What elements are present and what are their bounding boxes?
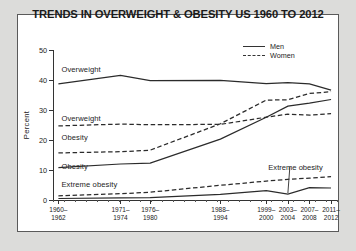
x-axis-label: 1988–1994 [211, 206, 229, 223]
x-axis-label-line: 1980 [143, 214, 157, 221]
y-axis-tick-label: 10 [39, 166, 47, 175]
x-axis-label-line: 2004 [281, 214, 295, 221]
x-axis-label-line: 2003– [279, 206, 297, 213]
x-axis-label-line: 2007– [300, 206, 318, 213]
y-axis-tick-label: 40 [39, 76, 47, 85]
x-axis-minor-tick [250, 200, 251, 202]
x-axis-label: 1971–1974 [111, 206, 129, 223]
x-axis-label-line: 1994 [213, 214, 227, 221]
x-axis-tick [120, 200, 121, 204]
x-axis-minor-tick [119, 200, 120, 202]
legend-swatch-solid-icon [243, 46, 265, 47]
x-axis-label-line: 2008 [302, 214, 316, 221]
x-axis-tick [331, 200, 332, 204]
x-axis-minor-tick [53, 200, 54, 202]
y-axis-tick-label: 30 [39, 106, 47, 115]
x-axis-minor-tick [64, 200, 65, 202]
x-axis-label: 2007–2008 [300, 206, 318, 223]
x-axis-minor-tick [97, 200, 98, 202]
x-axis-minor-tick [282, 200, 283, 202]
x-axis-minor-tick [195, 200, 196, 202]
x-axis-label-line: 1999– [257, 206, 275, 213]
x-axis-label: 1960–1962 [49, 206, 67, 223]
x-axis-label-line: 1960– [49, 206, 67, 213]
x-axis-minor-tick [239, 200, 240, 202]
y-axis-tick-label: 0 [43, 196, 47, 205]
x-axis-minor-tick [206, 200, 207, 202]
x-axis-minor-tick [140, 200, 141, 202]
x-axis-minor-tick [326, 200, 327, 202]
plot-area: 01020304050 1960–19621971–19741976–19801… [53, 50, 337, 200]
x-axis-label-line: 1962 [51, 214, 65, 221]
x-axis-minor-tick [304, 200, 305, 202]
y-axis-tick-label: 20 [39, 136, 47, 145]
y-axis-title: Percent [22, 111, 31, 139]
series-line-obesity-women [58, 92, 331, 153]
x-axis-label-line: 2012 [324, 214, 338, 221]
series-line-overweight-women [58, 114, 331, 126]
x-axis-label-line: 2011– [322, 206, 340, 213]
x-axis-minor-tick [315, 200, 316, 202]
x-axis-minor-tick [108, 200, 109, 202]
x-axis-minor-tick [86, 200, 87, 202]
series-lines [53, 50, 337, 200]
x-axis-minor-tick [261, 200, 262, 202]
x-axis-minor-tick [75, 200, 76, 202]
x-axis-tick [220, 200, 221, 204]
chart-title: TRENDS IN OVERWEIGHT & OBESITY US 1960 T… [0, 8, 356, 20]
x-axis-minor-tick [162, 200, 163, 202]
series-line-overweight-men [58, 76, 331, 91]
x-axis-tick [266, 200, 267, 204]
x-axis-label: 1976–1980 [141, 206, 159, 223]
y-axis-tick-label: 50 [39, 46, 47, 55]
chart-page: TRENDS IN OVERWEIGHT & OBESITY US 1960 T… [0, 0, 356, 251]
x-axis-minor-tick [228, 200, 229, 202]
x-axis-tick [58, 200, 59, 204]
x-axis-label: 1999–2000 [257, 206, 275, 223]
x-axis-minor-tick [151, 200, 152, 202]
x-axis-label-line: 1974 [113, 214, 127, 221]
x-axis-minor-tick [293, 200, 294, 202]
x-axis-minor-tick [337, 200, 338, 202]
x-axis-label-line: 1976– [141, 206, 159, 213]
x-axis-minor-tick [217, 200, 218, 202]
x-axis-tick [288, 200, 289, 204]
x-axis-label-line: 1988– [211, 206, 229, 213]
series-line-extreme-obesity-men [58, 188, 331, 199]
x-axis-tick [150, 200, 151, 204]
x-axis-minor-tick [173, 200, 174, 202]
x-axis-label: 2011–2012 [322, 206, 340, 223]
x-axis-minor-tick [271, 200, 272, 202]
x-axis-label-line: 1971– [111, 206, 129, 213]
x-axis-minor-tick [129, 200, 130, 202]
x-axis-minor-tick [184, 200, 185, 202]
x-axis-label: 2003–2004 [279, 206, 297, 223]
x-axis-tick [309, 200, 310, 204]
x-axis-label-line: 2000 [259, 214, 273, 221]
